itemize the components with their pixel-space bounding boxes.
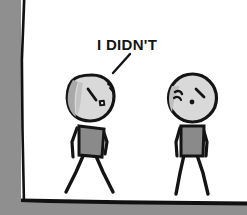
comic-artwork: I DIDN'T: [0, 0, 247, 215]
dialogue-text: I DIDN'T: [97, 36, 157, 53]
page-shadow-left: [0, 0, 22, 215]
right-character-torso: [181, 126, 204, 156]
comic-panel: I DIDN'T: [0, 0, 247, 215]
left-character-eye-highlight: [101, 102, 103, 104]
left-character-torso: [79, 126, 104, 157]
right-character-eye: [190, 100, 195, 105]
